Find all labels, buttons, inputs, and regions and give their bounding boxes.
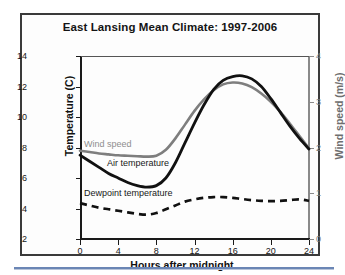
y-tick-label-left: 12 <box>17 83 27 92</box>
series-label-dewpoint-temperature: Dewpoint temperature <box>84 188 173 198</box>
x-tick <box>156 240 157 245</box>
y-tick-label-left: 8 <box>22 144 27 153</box>
y-axis-right-title: Wind speed (m/s) <box>333 51 345 181</box>
x-tick <box>233 240 234 245</box>
y-tick-label-right: 2 <box>316 144 321 153</box>
y-tick-right <box>309 102 314 103</box>
series-label-air-temperature: Air temperature <box>107 158 169 168</box>
y-tick-right <box>309 56 314 57</box>
x-tick <box>195 240 196 245</box>
series-label-wind-speed: Wind speed <box>84 139 132 149</box>
y-tick-label-right: 3 <box>316 98 321 107</box>
y-tick-label-left: 6 <box>22 174 27 183</box>
page-divider-rule-shadow <box>14 269 334 270</box>
x-tick-label: 24 <box>299 247 319 256</box>
x-tick-label: 8 <box>146 247 166 256</box>
series-line-dewpoint-temperature <box>80 197 309 215</box>
y-tick-right <box>309 193 314 194</box>
y-axis-left-title: Temperature (C) <box>63 56 75 176</box>
y-tick-label-left: 2 <box>22 235 27 244</box>
x-tick <box>80 240 81 245</box>
y-tick-label-right: 0 <box>316 235 321 244</box>
y-tick-label-left: 4 <box>22 205 27 214</box>
x-tick-label: 4 <box>108 247 128 256</box>
x-tick-label: 0 <box>70 247 90 256</box>
x-tick <box>271 240 272 245</box>
x-tick-label: 16 <box>223 247 243 256</box>
x-tick <box>118 240 119 245</box>
y-tick-label-left: 10 <box>17 113 27 122</box>
x-tick <box>309 240 310 245</box>
chart-title: East Lansing Mean Climate: 1997-2006 <box>22 21 318 33</box>
y-tick-label-right: 4 <box>316 52 321 61</box>
chart-figure-frame: East Lansing Mean Climate: 1997-2006 14 … <box>20 13 320 256</box>
series-line-air-temperature <box>80 76 309 187</box>
x-tick-label: 20 <box>261 247 281 256</box>
y-tick-label-left: 14 <box>17 52 27 61</box>
y-tick-label-right: 1 <box>316 189 321 198</box>
x-tick-label: 12 <box>185 247 205 256</box>
